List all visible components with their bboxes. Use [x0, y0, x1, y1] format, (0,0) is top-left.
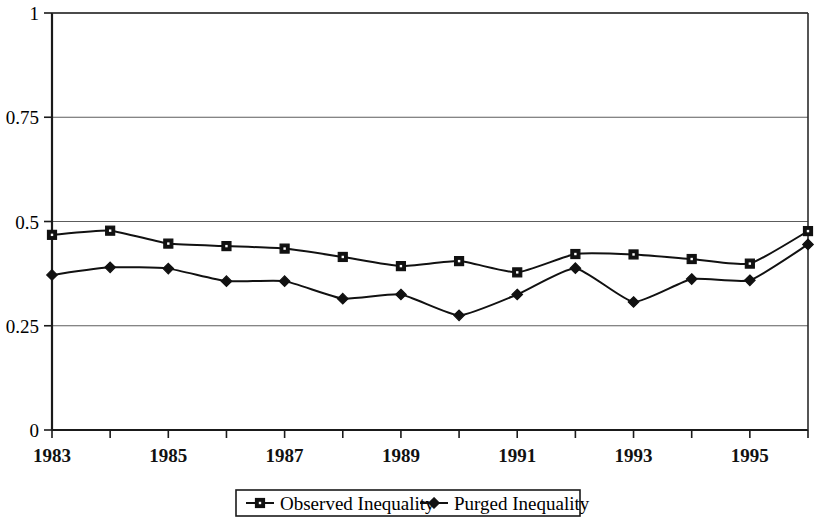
data-point-marker-center	[458, 260, 460, 262]
y-axis-ticks	[44, 13, 52, 430]
data-point-marker	[396, 289, 407, 300]
data-point-marker-center	[400, 265, 402, 267]
data-point-marker-center	[690, 258, 692, 260]
x-tick-label: 1987	[266, 445, 305, 466]
y-tick-label: 0.75	[6, 107, 39, 128]
y-tick-label: 1	[30, 3, 40, 24]
data-point-marker-center	[574, 253, 576, 255]
data-point-marker	[686, 274, 697, 285]
y-tick-label: 0.25	[6, 316, 39, 337]
data-point-marker-center	[109, 229, 111, 231]
chart-legend: Observed InequalityPurged Inequality	[236, 490, 590, 516]
data-point-marker	[628, 297, 639, 308]
data-point-marker-center	[283, 247, 285, 249]
data-point-marker	[221, 276, 232, 287]
data-point-marker	[105, 262, 116, 273]
data-series	[47, 226, 814, 320]
data-point-marker	[454, 310, 465, 321]
data-point-marker-center	[51, 234, 53, 236]
chart-container: 00.250.50.751 19831985198719891991199319…	[0, 0, 816, 518]
y-tick-label: 0.5	[15, 212, 39, 233]
x-tick-label: 1983	[33, 445, 71, 466]
data-point-marker	[163, 263, 174, 274]
data-point-marker-center	[807, 230, 809, 232]
x-tick-label: 1991	[498, 445, 536, 466]
data-point-marker	[279, 276, 290, 287]
data-point-marker-center	[167, 242, 169, 244]
data-point-marker-center	[516, 271, 518, 273]
data-point-marker-center	[225, 245, 227, 247]
y-gridlines	[52, 13, 808, 430]
data-point-marker	[512, 289, 523, 300]
series-2	[47, 239, 814, 320]
data-point-marker-center	[342, 256, 344, 258]
data-point-marker	[745, 275, 756, 286]
inequality-line-chart: 00.250.50.751 19831985198719891991199319…	[0, 0, 816, 518]
x-tick-label: 1993	[615, 445, 653, 466]
series-1	[48, 226, 813, 277]
data-point-marker	[47, 270, 58, 281]
y-tick-label: 0	[30, 420, 40, 441]
data-point-marker	[338, 293, 349, 304]
x-axis-ticks	[52, 430, 808, 438]
legend-entry-label: Observed Inequality	[280, 493, 435, 514]
legend-entry-label: Purged Inequality	[454, 493, 590, 514]
data-point-marker	[570, 263, 581, 274]
x-tick-label: 1985	[149, 445, 187, 466]
x-axis-labels: 1983198519871989199119931995	[33, 445, 769, 466]
y-axis-labels: 00.250.50.751	[6, 3, 39, 441]
data-point-marker-center	[259, 502, 261, 504]
x-tick-label: 1989	[382, 445, 420, 466]
data-point-marker-center	[632, 253, 634, 255]
data-point-marker	[803, 239, 814, 250]
x-tick-label: 1995	[731, 445, 769, 466]
data-point-marker-center	[749, 262, 751, 264]
